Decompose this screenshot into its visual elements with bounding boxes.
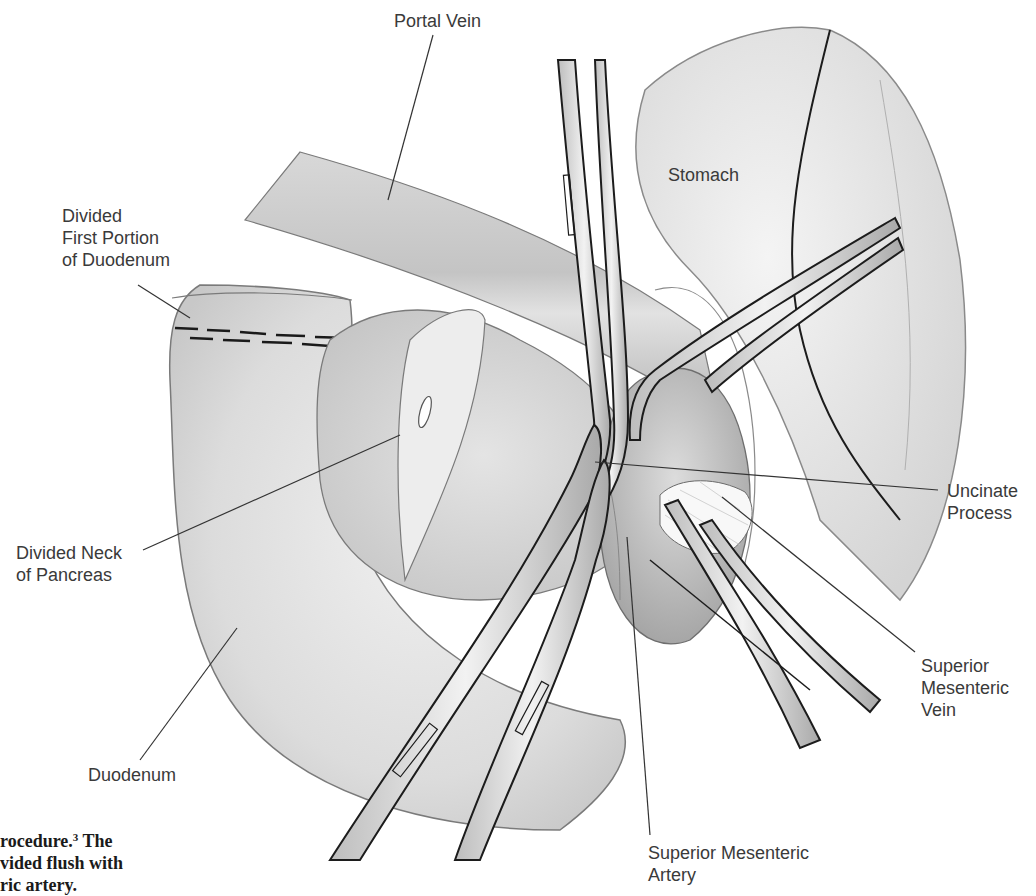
label-duodenum: Duodenum — [88, 764, 176, 786]
caption-line-3: ric artery. — [0, 874, 123, 896]
figure-caption: rocedure.3 The vided flush with ric arte… — [0, 826, 123, 896]
leader-portal-vein — [388, 35, 433, 200]
caption-line-1: rocedure.3 The — [0, 826, 123, 852]
label-divided-neck: Divided Neck of Pancreas — [16, 542, 122, 586]
label-superior-mesenteric-artery: Superior Mesenteric Artery — [648, 842, 809, 886]
leader-duodenum — [140, 628, 237, 760]
label-uncinate-process: Uncinate Process — [947, 480, 1018, 524]
label-stomach: Stomach — [668, 164, 739, 186]
caption-line-2: vided flush with — [0, 852, 123, 874]
label-superior-mesenteric-vein: Superior Mesenteric Vein — [921, 655, 1009, 721]
label-portal-vein: Portal Vein — [394, 10, 481, 32]
label-divided-first-portion: Divided First Portion of Duodenum — [62, 205, 170, 271]
